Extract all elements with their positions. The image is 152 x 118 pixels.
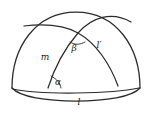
label-m: m xyxy=(41,52,50,62)
figure-container: m β l′ α l xyxy=(0,0,152,118)
geodesic-arc-l-prime xyxy=(24,25,118,86)
dome-geodesic-diagram: m β l′ α l xyxy=(0,0,152,118)
label-alpha: α xyxy=(55,77,61,87)
label-l: l xyxy=(78,97,81,107)
base-circle-front-arc xyxy=(12,88,140,101)
label-l-prime: l′ xyxy=(97,40,102,50)
base-line-l xyxy=(13,88,139,93)
label-beta: β xyxy=(70,43,76,53)
